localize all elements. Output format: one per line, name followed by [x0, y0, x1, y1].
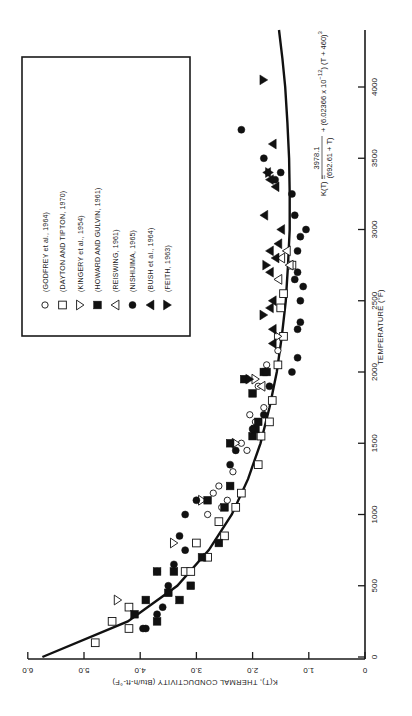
data-point [91, 639, 99, 647]
data-point [300, 283, 307, 290]
data-point [114, 595, 121, 605]
data-point [142, 596, 150, 604]
data-point [277, 169, 284, 176]
equation-rest-main: + (6.02366 x 10 [319, 80, 328, 132]
data-point [153, 618, 161, 626]
thermal-conductivity-chart: (GODFREY et al., 1964)(DAYTON AND TIPTON… [0, 0, 412, 716]
data-point [216, 483, 222, 489]
equation-tail: ) (T + 460) [319, 34, 328, 70]
legend-item: (HOWARD AND GULVIN, 1961) [94, 187, 102, 308]
y-tick-label: 0 [362, 666, 367, 675]
fit-equation: K(T) = 3978.1 (692.61 + T) + (6.02366 x … [312, 30, 334, 196]
legend-label: (FEITH, 1963) [164, 245, 172, 292]
data-point [108, 618, 116, 626]
data-point [275, 347, 281, 353]
x-tick-label: 1000 [370, 505, 379, 523]
legend-label: (KINGERY et al., 1954) [77, 215, 85, 292]
data-point [254, 461, 262, 469]
y-tick-label: 3.0 [190, 666, 202, 675]
data-point [302, 226, 309, 233]
data-point [226, 439, 234, 447]
data-point [176, 532, 183, 539]
data-point [224, 497, 230, 503]
data-point [291, 276, 298, 283]
data-point [187, 568, 195, 576]
data-point [294, 269, 301, 276]
data-point [297, 319, 304, 326]
data-point [204, 511, 210, 517]
data-point [232, 504, 240, 512]
data-point [274, 274, 282, 284]
data-point [277, 225, 285, 235]
data-point [131, 610, 139, 618]
data-point [154, 611, 161, 618]
data-point [263, 260, 271, 270]
legend-marker-icon [42, 302, 48, 308]
data-point [230, 469, 236, 475]
data-point [210, 490, 216, 496]
data-point [260, 75, 268, 85]
x-tick-label: 500 [370, 579, 379, 593]
data-point [257, 432, 265, 440]
equation-denominator: (692.61 + T) [325, 137, 334, 178]
data-point [249, 432, 257, 440]
legend-label: (DAYTON AND TIPTON, 1970) [59, 191, 67, 292]
data-point [288, 190, 295, 197]
legend-marker-icon [94, 301, 102, 309]
data-point [244, 447, 250, 453]
x-tick-label: 3500 [370, 149, 379, 167]
series-filled-triangle-right [246, 75, 274, 384]
data-point [159, 604, 166, 611]
legend-label: (GODFREY et al., 1964) [42, 212, 50, 292]
y-axis-title: K(T), THERMAL CONDUCTIVITY (Btu/h-ft-°F) [112, 678, 278, 687]
legend-label: (REISWING, 1961) [112, 229, 120, 292]
data-point [215, 539, 223, 547]
y-axis-ticks: 01.02.03.04.05.06.0 [22, 652, 368, 675]
data-point [226, 482, 234, 490]
data-point [198, 553, 206, 561]
data-point [187, 582, 195, 590]
x-tick-label: 0 [370, 654, 379, 659]
data-point [274, 239, 282, 249]
data-point [193, 539, 201, 547]
data-point [263, 368, 271, 376]
y-tick-label: 5.0 [78, 666, 90, 675]
data-point [297, 233, 304, 240]
data-point [268, 139, 276, 149]
data-point [176, 596, 184, 604]
data-point [125, 603, 133, 611]
data-point [221, 532, 229, 540]
data-point [280, 290, 288, 298]
data-point [182, 511, 189, 518]
equation-rest: + (6.02366 x 10−12) (T + 460)3 [317, 30, 328, 132]
data-point [260, 210, 268, 220]
data-point [170, 538, 177, 548]
data-point [294, 247, 301, 254]
equation-numerator: 3978.1 [312, 147, 321, 170]
data-point [215, 518, 223, 526]
data-point [268, 324, 276, 334]
y-tick-label: 6.0 [22, 666, 34, 675]
data-point [170, 568, 178, 576]
x-tick-label: 1500 [370, 434, 379, 452]
data-point [140, 625, 147, 632]
y-tick-label: 2.0 [246, 666, 258, 675]
legend-label: (HOWARD AND GULVIN, 1961) [94, 187, 102, 292]
data-point [266, 303, 274, 313]
data-point [266, 246, 274, 256]
data-point [291, 212, 298, 219]
data-point [260, 155, 267, 162]
data-point [260, 310, 268, 320]
data-point [227, 461, 234, 468]
y-tick-label: 1.0 [303, 666, 315, 675]
data-point [268, 339, 276, 349]
data-point [288, 369, 295, 376]
equation-cube: 3 [317, 30, 323, 34]
data-point [193, 497, 200, 504]
data-point [238, 126, 245, 133]
data-point [266, 267, 274, 277]
x-tick-label: 4000 [370, 78, 379, 96]
data-point [164, 589, 172, 597]
data-point [266, 383, 273, 390]
data-point [260, 411, 267, 418]
